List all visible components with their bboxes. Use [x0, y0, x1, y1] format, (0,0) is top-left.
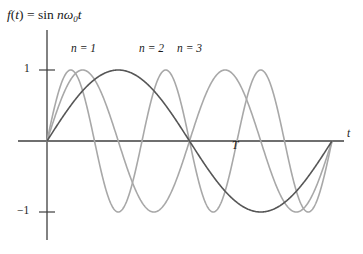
title-n: n — [54, 7, 64, 22]
series-label-n1: n = 1 — [71, 43, 96, 55]
plot-canvas — [0, 0, 363, 254]
title-omega: ω — [64, 7, 74, 22]
y-tick-label-positive-one: 1 — [24, 63, 30, 75]
axes-group — [18, 30, 344, 240]
x-axis-label: t — [347, 128, 350, 140]
period-label: T — [232, 140, 238, 152]
figure-title: f(t) = sin nω0t — [7, 8, 82, 22]
title-t2: t — [78, 7, 82, 22]
y-tick-label-negative-one: −1 — [17, 205, 29, 217]
title-sin: sin — [38, 7, 54, 22]
title-subscript-zero: 0 — [73, 14, 77, 24]
series-label-n2: n = 2 — [139, 43, 164, 55]
title-equals: = — [24, 7, 38, 22]
sine-harmonics-figure: f(t) = sin nω0t n = 1 n = 2 n = 3 1 −1 T… — [0, 0, 363, 254]
series-label-n3: n = 3 — [177, 43, 202, 55]
